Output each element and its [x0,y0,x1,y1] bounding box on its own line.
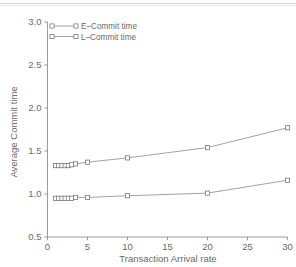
data-point-marker [125,156,129,160]
data-point-marker [73,195,77,199]
series-e-commit-time [53,178,289,200]
data-point-marker [285,126,289,130]
series-line-path [56,128,288,166]
y-tick-label: 3.0 [28,16,41,27]
chart-legend: E–Commit timeL–Commit time [50,22,138,42]
x-tick-label: 20 [202,241,213,252]
data-point-marker [205,145,209,149]
data-point-marker [73,162,77,166]
legend-sample-marker [50,24,54,28]
chart-figure: 0.51.01.52.02.53.0 051015202530 E–Commit… [0,0,296,267]
y-tick-label: 0.5 [28,231,41,242]
series-l-commit-time [53,126,289,168]
x-tick-label: 10 [122,241,133,252]
line-chart-plot: 0.51.01.52.02.53.0 051015202530 E–Commit… [0,0,296,267]
legend-sample-marker [74,24,78,28]
y-axis-title: Average Commit time [8,86,19,177]
x-tick-label: 5 [85,241,90,252]
y-tick-label: 1.0 [28,188,41,199]
series-layer [53,126,289,201]
y-tick-label: 2.0 [28,102,41,113]
y-axis-ticks: 0.51.01.52.02.53.0 [28,16,47,242]
y-tick-label: 1.5 [28,145,41,156]
series-line-path [56,180,288,198]
legend-label: L–Commit time [81,33,136,42]
data-point-marker [285,178,289,182]
x-axis-ticks: 051015202530 [45,237,293,252]
legend-entry: L–Commit time [50,33,137,42]
data-point-marker [85,195,89,199]
x-tick-label: 0 [45,241,50,252]
x-tick-label: 30 [282,241,293,252]
data-point-marker [69,196,73,200]
x-tick-label: 25 [242,241,253,252]
data-point-marker [205,191,209,195]
data-point-marker [125,194,129,198]
data-point-marker [69,163,73,167]
x-axis-title: Transaction Arrival rate [119,253,216,264]
legend-sample-marker [50,34,54,38]
legend-label: E–Commit time [81,22,137,31]
legend-sample-marker [74,34,78,38]
y-tick-label: 2.5 [28,59,41,70]
data-point-marker [85,160,89,164]
legend-entry: E–Commit time [50,22,138,31]
x-tick-label: 15 [162,241,173,252]
